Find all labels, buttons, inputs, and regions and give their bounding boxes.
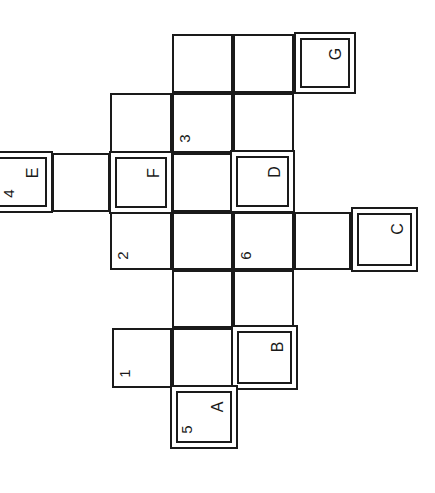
grid-cell[interactable] — [172, 34, 233, 93]
grid-cell[interactable] — [233, 270, 294, 328]
grid-cell[interactable] — [233, 93, 294, 153]
grid-cell[interactable] — [172, 270, 233, 328]
clue-number: 4 — [1, 189, 16, 197]
clue-number: 1 — [117, 369, 132, 377]
cell-letter: B — [271, 342, 287, 353]
clue-number: 2 — [115, 251, 130, 259]
grid-cell-2[interactable]: 2 — [110, 212, 172, 270]
grid-cell-1[interactable]: 1 — [112, 328, 172, 388]
grid-cell[interactable] — [110, 93, 172, 153]
cell-letter: G — [328, 48, 344, 60]
clue-number: 6 — [238, 251, 253, 259]
grid-cell-c[interactable]: C — [351, 207, 418, 272]
grid-cell-3[interactable]: 3 — [172, 93, 233, 153]
grid-cell-b[interactable]: B — [231, 325, 298, 390]
grid-cell-6[interactable]: 6 — [233, 212, 294, 270]
grid-cell[interactable] — [172, 153, 233, 212]
clue-number: 5 — [179, 425, 194, 433]
cell-letter: E — [26, 168, 42, 179]
cell-letter: D — [267, 166, 283, 178]
grid-cell-d[interactable]: D — [230, 150, 295, 213]
grid-cell-e[interactable]: 4E — [0, 151, 53, 213]
grid-cell-a[interactable]: 5A — [170, 385, 238, 449]
grid-cell[interactable] — [172, 212, 233, 270]
clue-number: 3 — [177, 134, 192, 142]
grid-cell-f[interactable]: F — [109, 151, 173, 214]
cell-letter: C — [390, 223, 406, 235]
grid-cell[interactable] — [233, 34, 294, 93]
grid-cell[interactable] — [52, 153, 110, 212]
cell-letter: A — [211, 402, 227, 413]
grid-cell[interactable] — [294, 212, 351, 270]
grid-cell-g[interactable]: G — [294, 32, 356, 94]
cell-letter: F — [146, 168, 162, 178]
grid-cell[interactable] — [172, 328, 233, 388]
